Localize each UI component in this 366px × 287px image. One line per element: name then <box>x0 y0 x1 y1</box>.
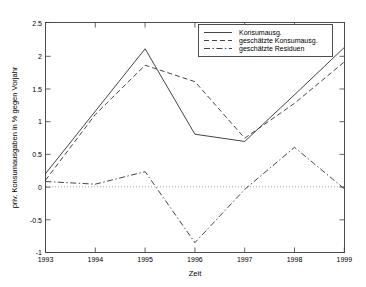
svg-text:1996: 1996 <box>187 256 203 263</box>
x-tickmarks <box>46 23 345 253</box>
legend-label-0: Konsumausg. <box>239 29 282 37</box>
svg-text:1997: 1997 <box>237 256 253 263</box>
legend-label-2: geschätzte Residuen <box>239 45 304 53</box>
y-axis-title: priv. Konsumausgaben in % gegen Vorjahr <box>10 66 19 208</box>
svg-text:1.5: 1.5 <box>32 86 42 93</box>
svg-text:-0.5: -0.5 <box>30 217 42 224</box>
axes-frame <box>46 23 345 253</box>
svg-text:1993: 1993 <box>38 256 54 263</box>
svg-text:2.5: 2.5 <box>32 20 42 27</box>
y-tickmarks <box>46 23 345 253</box>
chart-legend: Konsumausg. geschätzte Konsumausg. gesch… <box>199 25 333 57</box>
svg-text:2: 2 <box>38 53 42 60</box>
x-axis-title: Zeit <box>189 269 202 278</box>
svg-text:0: 0 <box>38 184 42 191</box>
series-line-konsumausg <box>46 47 345 173</box>
svg-text:1999: 1999 <box>337 256 353 263</box>
x-tick-labels: 1993 1994 1995 1996 1997 1998 1999 <box>38 256 352 263</box>
y-tick-labels: -1 -0.5 0 0.5 1 1.5 2 2.5 <box>30 20 42 257</box>
line-chart: -1 -0.5 0 0.5 1 1.5 2 2.5 1993 1994 1995… <box>0 0 366 287</box>
series-line-geschaetzte-residuen <box>46 147 345 242</box>
svg-text:1998: 1998 <box>287 256 303 263</box>
svg-text:1995: 1995 <box>137 256 153 263</box>
chart-figure: -1 -0.5 0 0.5 1 1.5 2 2.5 1993 1994 1995… <box>0 0 366 287</box>
series-line-geschaetzte-konsumausg <box>46 62 345 180</box>
legend-label-1: geschätzte Konsumausg. <box>239 37 318 45</box>
svg-text:1994: 1994 <box>88 256 104 263</box>
svg-text:1: 1 <box>38 118 42 125</box>
svg-text:0.5: 0.5 <box>32 151 42 158</box>
